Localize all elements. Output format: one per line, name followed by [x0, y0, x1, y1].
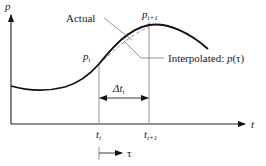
interpolated-label: Interpolated: p(τ): [168, 52, 245, 65]
point-p-i-label: pi: [82, 50, 91, 64]
actual-leader-line: [104, 18, 132, 40]
delta-t-label: Δti: [112, 82, 125, 96]
interpolation-diagram: p t Actual Interpolated: p(τ) pi pi+1 Δt…: [0, 0, 266, 166]
interpolated-curve: [99, 27, 149, 64]
tick-t-i1-label: ti+1: [144, 128, 157, 142]
tau-label: τ: [127, 147, 132, 159]
point-p-i1-label: pi+1: [141, 8, 158, 22]
interpolated-leader-line: [124, 41, 164, 58]
actual-label: Actual: [66, 12, 95, 24]
x-axis-label: t: [251, 118, 255, 130]
tick-t-i-label: ti: [96, 128, 101, 142]
y-axis-label: p: [4, 0, 11, 12]
